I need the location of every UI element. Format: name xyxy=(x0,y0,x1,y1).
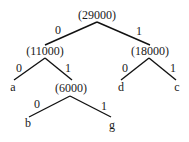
bit-label-18000-d: 0 xyxy=(122,61,128,75)
bit-label-11000-a: 0 xyxy=(16,61,22,75)
bit-label-root-11000: 0 xyxy=(55,23,61,37)
bit-label-18000-c: 1 xyxy=(170,61,176,75)
node-11000: (11000) xyxy=(26,44,64,58)
leaf-a: a xyxy=(10,80,16,94)
leaf-d: d xyxy=(118,80,124,94)
bit-label-11000-6000: 1 xyxy=(65,61,71,75)
leaf-b: b xyxy=(25,116,31,130)
leaf-g: g xyxy=(109,118,115,132)
huffman-tree-diagram: 0 1 0 1 0 1 0 1 (29000) (11000) (18000) … xyxy=(0,0,189,142)
leaf-c: c xyxy=(174,80,179,94)
bit-label-6000-g: 1 xyxy=(101,99,107,113)
node-root-29000: (29000) xyxy=(78,8,116,22)
edge-bit-labels: 0 1 0 1 0 1 0 1 xyxy=(16,23,176,113)
node-6000: (6000) xyxy=(55,81,87,95)
bit-label-6000-b: 0 xyxy=(34,97,40,111)
node-18000: (18000) xyxy=(131,44,169,58)
bit-label-root-18000: 1 xyxy=(136,24,142,38)
edge-root-11000 xyxy=(45,22,97,45)
edge-root-18000 xyxy=(97,22,150,45)
